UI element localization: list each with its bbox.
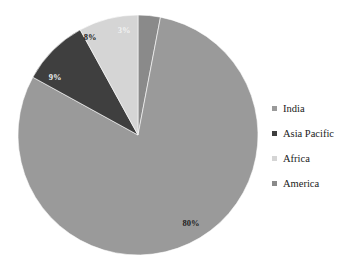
- legend-item-america[interactable]: America: [272, 175, 355, 192]
- slice-value-label-asia-pacific: 9%: [49, 72, 62, 82]
- legend-item-asia-pacific[interactable]: Asia Pacific: [272, 125, 355, 142]
- slice-value-label-africa: 8%: [84, 32, 97, 42]
- legend-item-label: America: [283, 178, 319, 190]
- legend-swatch-icon: [272, 156, 277, 161]
- legend-swatch-icon: [272, 181, 277, 186]
- slice-value-label-america: 3%: [118, 25, 131, 35]
- legend-item-india[interactable]: India: [272, 100, 355, 117]
- pie-slices: [18, 15, 258, 255]
- legend-swatch-icon: [272, 106, 277, 111]
- pie-plot-area: 3%80%9%8%: [0, 0, 276, 269]
- legend-item-africa[interactable]: Africa: [272, 150, 355, 167]
- legend-item-label: India: [283, 103, 305, 115]
- pie-svg: 3%80%9%8%: [0, 0, 276, 269]
- slice-value-label-india: 80%: [183, 218, 200, 228]
- chart-legend: IndiaAsia PacificAfricaAmerica: [272, 100, 355, 200]
- legend-item-label: Africa: [283, 153, 310, 165]
- legend-swatch-icon: [272, 131, 277, 136]
- pie-chart: 3%80%9%8% IndiaAsia PacificAfricaAmerica: [0, 0, 355, 269]
- legend-item-label: Asia Pacific: [283, 128, 334, 140]
